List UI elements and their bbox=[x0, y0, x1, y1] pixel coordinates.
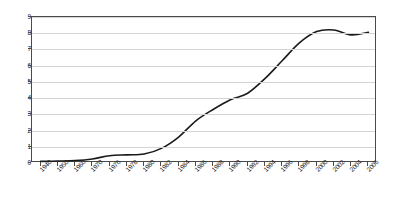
gridline-4 bbox=[32, 98, 375, 99]
plot-area bbox=[31, 16, 376, 162]
gridline-3 bbox=[32, 114, 375, 115]
gridline-8 bbox=[32, 33, 375, 34]
gridline-5 bbox=[32, 82, 375, 83]
gridline-6 bbox=[32, 66, 375, 67]
line-chart: 0123456789 19401950196019701976197819801… bbox=[0, 0, 398, 200]
gridline-1 bbox=[32, 147, 375, 148]
gridline-9 bbox=[32, 17, 375, 18]
x-axis: 1940195019601970197619781980198219841986… bbox=[31, 162, 376, 200]
gridline-7 bbox=[32, 49, 375, 50]
gridline-2 bbox=[32, 131, 375, 132]
y-axis: 0123456789 bbox=[0, 16, 31, 162]
data-line-series-1 bbox=[32, 17, 377, 163]
